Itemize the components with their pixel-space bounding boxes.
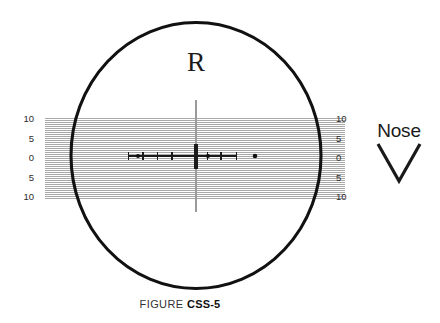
data-point xyxy=(206,154,210,158)
data-point xyxy=(136,154,140,158)
chart-plate: 10 5 0 5 10 10 5 0 5 10 Я FIGURE CSS-5 xyxy=(0,0,360,300)
chevron-down-icon xyxy=(374,142,424,184)
orientation-mark-icon: Я xyxy=(178,44,214,78)
y-tick-label-right-5-lower: 5 xyxy=(336,173,356,183)
figure-caption: FIGURE CSS-5 xyxy=(0,298,360,310)
y-tick-label-right-10-upper: 10 xyxy=(336,114,356,124)
y-tick-label-left-0: 0 xyxy=(14,153,34,163)
figure-caption-id: CSS-5 xyxy=(187,298,220,310)
nose-marker: Nose xyxy=(366,120,432,184)
y-tick-label-left-10-upper: 10 xyxy=(14,114,34,124)
orientation-mark-glyph: Я xyxy=(187,47,205,77)
y-tick-label-left-10-lower: 10 xyxy=(14,192,34,202)
figure-caption-prefix: FIGURE xyxy=(140,298,184,310)
data-point xyxy=(253,154,258,159)
y-tick-label-right-10-lower: 10 xyxy=(336,192,356,202)
y-tick-label-left-5-lower: 5 xyxy=(14,173,34,183)
y-tick-label-right-0: 0 xyxy=(336,153,356,163)
y-tick-label-right-5-upper: 5 xyxy=(336,134,356,144)
y-tick-label-left-5-upper: 5 xyxy=(14,134,34,144)
figure-page: 10 5 0 5 10 10 5 0 5 10 Я FIGURE CSS-5 N… xyxy=(0,0,440,323)
nose-label: Nose xyxy=(366,120,432,142)
